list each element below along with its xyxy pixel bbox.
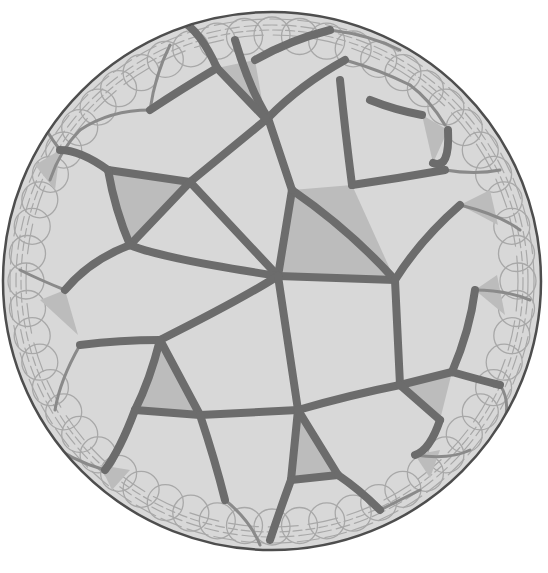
poincare-disk: [0, 0, 548, 573]
tiling-edge: [291, 475, 338, 480]
tiling-edge: [135, 410, 200, 415]
tiling-edge: [395, 280, 400, 385]
hyperbolic-tiling-figure: [0, 0, 548, 573]
tiling-edge: [200, 410, 298, 415]
tiling-edge: [278, 276, 395, 280]
